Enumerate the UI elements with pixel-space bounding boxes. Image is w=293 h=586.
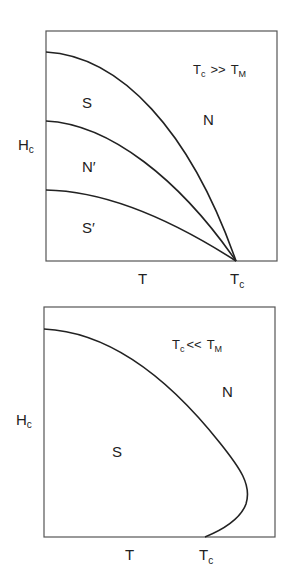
region-n-prime: N′	[82, 158, 96, 175]
diagram-bottom: Tc<<TM N S Hc T Tc	[16, 307, 275, 566]
y-axis-label: Hc	[16, 411, 32, 430]
x-axis-label: T	[125, 546, 134, 563]
region-n: N	[203, 111, 214, 128]
condition-label: Tc>>TM	[193, 62, 246, 79]
phase-diagrams: Tc>>TM S N N′ S′ Hc T Tc Tc<<TM N S Hc T…	[0, 0, 293, 586]
condition-label: Tc<<TM	[172, 337, 222, 354]
x-tick-tc: Tc	[230, 270, 244, 290]
diagram-top: Tc>>TM S N N′ S′ Hc T Tc	[18, 31, 277, 290]
region-s: S	[82, 94, 92, 111]
plot-frame	[46, 31, 277, 261]
phase-boundary-nprime-sprime	[46, 190, 236, 261]
y-axis-label: Hc	[18, 136, 34, 155]
x-tick-tc: Tc	[199, 546, 213, 566]
phase-boundary-s-n	[44, 329, 248, 537]
plot-frame	[44, 307, 275, 537]
region-s: S	[112, 443, 122, 460]
x-axis-label: T	[138, 270, 147, 287]
region-s-prime: S′	[82, 219, 95, 236]
phase-boundary-s-n	[46, 52, 236, 261]
region-n: N	[222, 383, 233, 400]
